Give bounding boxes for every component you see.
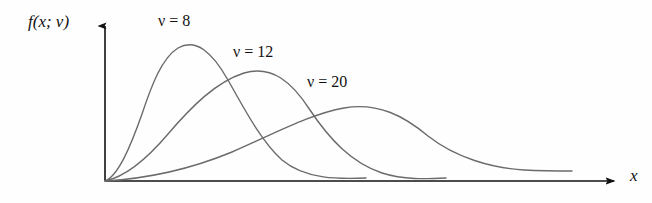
chi-square-density-figure: f(x; ν) x ν = 8 ν = 12 ν = 20 <box>0 0 652 203</box>
plot-canvas <box>0 0 652 203</box>
curve-nu-8 <box>105 45 366 181</box>
curve-label-nu-12: ν = 12 <box>233 43 273 61</box>
curve-nu-20 <box>105 107 572 181</box>
curve-nu-12 <box>105 71 446 181</box>
x-axis-label: x <box>630 166 638 186</box>
curve-label-nu-8: ν = 8 <box>158 12 190 30</box>
curve-label-nu-20: ν = 20 <box>307 73 347 91</box>
y-axis-label: f(x; ν) <box>28 12 69 32</box>
